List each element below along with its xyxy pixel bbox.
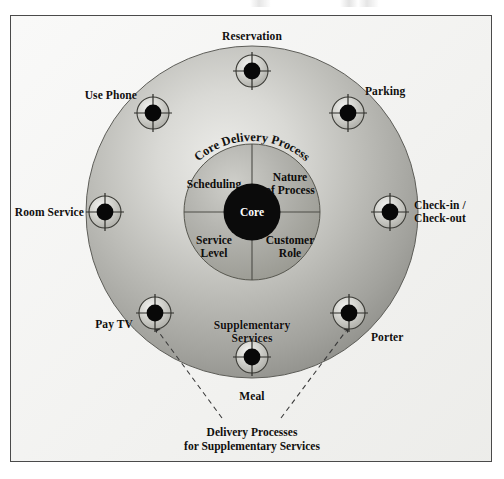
petal-label-room-service: Room Service	[15, 206, 84, 219]
petal-label-check-in-out-line1: Check-in /	[414, 199, 466, 211]
supplementary-services-line1: Supplementary	[214, 319, 291, 331]
petal-label-porter: Porter	[371, 331, 404, 344]
ring-label-customer-line2: Role	[279, 247, 301, 259]
callout-caption: Delivery Processes for Supplementary Ser…	[184, 425, 320, 453]
petal-label-check-in-out-line2: Check-out	[414, 212, 466, 224]
ring-label-nature-line1: Nature	[273, 171, 307, 183]
ring-label-service-level: Service Level	[196, 234, 232, 260]
figure-stage: Core Delivery Process	[0, 0, 504, 479]
callout-caption-line2: for Supplementary Services	[184, 440, 320, 452]
core-label: Core	[240, 206, 264, 218]
supplementary-services-label: Supplementary Services	[214, 319, 291, 344]
supplementary-services-line2: Services	[231, 332, 272, 344]
ring-label-nature-of-process: Nature of Process	[265, 171, 314, 197]
petal-label-use-phone: Use Phone	[85, 89, 137, 102]
ring-label-service-line1: Service	[196, 234, 232, 246]
ring-label-scheduling: Scheduling	[187, 178, 241, 191]
petal-label-check-in-out: Check-in / Check-out	[414, 199, 490, 224]
petal-label-reservation: Reservation	[222, 30, 282, 43]
petal-label-meal: Meal	[239, 390, 264, 403]
ring-label-service-line2: Level	[201, 247, 228, 259]
ring-label-customer-role: Customer Role	[266, 234, 315, 260]
ring-label-nature-line2: of Process	[265, 184, 314, 196]
petal-label-parking: Parking	[365, 85, 405, 98]
diagram-canvas: Core Delivery Process	[0, 0, 504, 479]
callout-caption-line1: Delivery Processes	[207, 426, 298, 438]
petal-label-pay-tv: Pay TV	[95, 318, 133, 331]
ring-label-customer-line1: Customer	[266, 234, 315, 246]
